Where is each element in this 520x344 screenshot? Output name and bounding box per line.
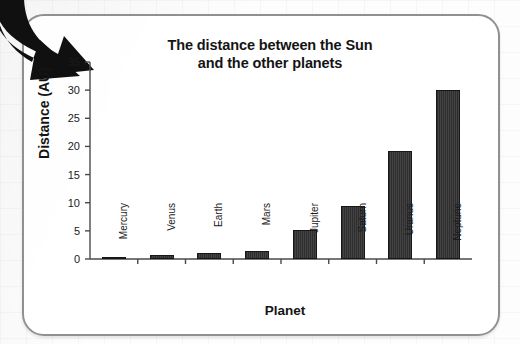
bar-chart: The distance between the Sun and the oth… (0, 0, 520, 344)
y-tick-0: 0 (54, 253, 80, 265)
y-tick-25: 25 (54, 112, 80, 124)
x-tick-saturn: Saturn (357, 203, 368, 265)
y-tick-30: 30 (54, 84, 80, 96)
y-tick-35: 35 (54, 56, 80, 68)
y-tick-5: 5 (54, 225, 80, 237)
x-tick-neptune: Neptune (452, 203, 463, 265)
x-tick-earth: Earth (213, 203, 224, 265)
x-tick-mars: Mars (261, 203, 272, 265)
y-tick-10: 10 (54, 197, 80, 209)
x-tick-mercury: Mercury (118, 203, 129, 265)
y-tick-20: 20 (54, 140, 80, 152)
x-tick-uranus: Uranus (404, 203, 415, 265)
x-tick-venus: Venus (166, 203, 177, 265)
x-tick-jupiter: Jupiter (309, 203, 320, 265)
y-tick-15: 15 (54, 169, 80, 181)
